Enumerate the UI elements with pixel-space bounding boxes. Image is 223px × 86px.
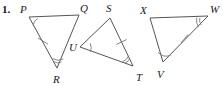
side-tick-vw-1 <box>181 35 188 44</box>
angle-arc-p-1 <box>33 19 38 26</box>
angle-arc-r-1 <box>53 59 63 61</box>
vertex-label-v: V <box>157 68 165 80</box>
triangle-xvw: X W V <box>139 3 220 80</box>
angle-arc-r-2 <box>54 62 62 63</box>
triangle-pqr: P Q R <box>19 2 88 85</box>
vertex-label-p: P <box>19 3 27 15</box>
vertex-label-t: T <box>136 71 143 83</box>
vertex-label-u: U <box>69 41 78 53</box>
vertex-label-w: W <box>210 3 220 15</box>
vertex-label-x: X <box>139 4 148 16</box>
geometry-figure: 1. P Q R S <box>0 0 223 86</box>
triangle-xvw-outline <box>150 16 208 62</box>
triangle-stu-outline <box>80 18 133 66</box>
vertex-label-r: R <box>52 73 60 85</box>
side-tick-st-1 <box>117 40 127 45</box>
triangles-diagram: P Q R S U T <box>0 0 223 86</box>
triangle-stu: S U T <box>69 2 143 83</box>
vertex-label-q: Q <box>80 2 88 14</box>
angle-arc-t-2 <box>125 58 130 63</box>
vertex-label-s: S <box>106 2 112 14</box>
